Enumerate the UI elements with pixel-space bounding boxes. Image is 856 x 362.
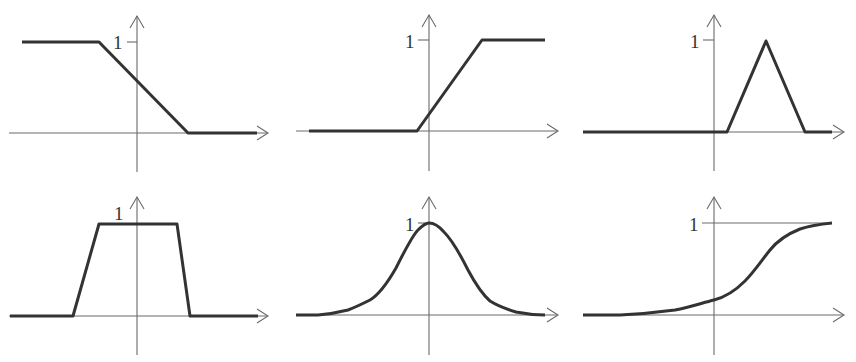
trapezoidal-curve	[10, 224, 258, 316]
one-label: 1	[405, 214, 415, 235]
one-label: 1	[113, 32, 123, 53]
panel-trapezoidal: 1	[9, 197, 268, 355]
one-label: 1	[690, 31, 700, 52]
one-label: 1	[689, 214, 699, 235]
left-shoulder-curve	[22, 42, 257, 133]
triangular-curve	[583, 41, 832, 132]
one-label: 1	[405, 31, 415, 52]
panel-sigmoid: 1	[583, 197, 844, 355]
sigmoid-curve	[583, 223, 832, 315]
panel-triangular: 1	[583, 15, 844, 171]
panel-left-shoulder: 1	[9, 16, 268, 172]
one-label: 1	[114, 203, 124, 224]
gaussian-curve	[296, 223, 545, 315]
right-shoulder-curve	[309, 40, 545, 131]
panel-right-shoulder: 1	[296, 15, 558, 171]
membership-functions-figure: 1 1 1 1 1	[0, 0, 856, 362]
panel-gaussian: 1	[296, 197, 558, 355]
